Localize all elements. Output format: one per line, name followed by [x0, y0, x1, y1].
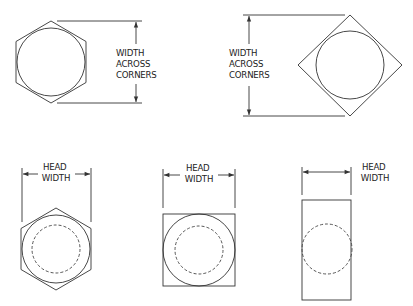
bearing-circle [163, 214, 235, 286]
label-line-3: CORNERS [229, 70, 270, 80]
hexagon-outline [21, 208, 91, 290]
dimension-label: HEAD WIDTH [185, 163, 213, 184]
fastener-head-diagram: WIDTH ACROSS CORNERS WIDTH ACROSS CORNER… [0, 0, 413, 306]
label-line-1: WIDTH [229, 48, 257, 58]
hexagon-outline [16, 21, 86, 103]
square-width-across-corners-figure: WIDTH ACROSS CORNERS [229, 15, 402, 116]
label-line-2: ACROSS [116, 59, 150, 69]
hexagon-width-across-corners-figure: WIDTH ACROSS CORNERS [16, 21, 157, 103]
label-line-1: HEAD [186, 163, 210, 173]
rectangle-outline [302, 200, 351, 300]
dimension-label: WIDTH ACROSS CORNERS [229, 48, 270, 80]
bearing-circle [17, 28, 85, 96]
rectangle-head-width-figure: HEAD WIDTH [302, 162, 389, 300]
diamond-outline [298, 15, 402, 116]
label-line-2: WIDTH [42, 173, 70, 183]
label-line-2: WIDTH [361, 173, 389, 183]
dashed-hole-circle [302, 224, 352, 274]
dashed-hole-circle [175, 226, 223, 274]
label-line-1: HEAD [362, 162, 386, 172]
label-line-3: CORNERS [116, 70, 157, 80]
square-head-width-figure: HEAD WIDTH [163, 163, 235, 286]
dimension-label: WIDTH ACROSS CORNERS [116, 48, 157, 80]
label-line-1: HEAD [43, 162, 67, 172]
label-line-2: WIDTH [185, 174, 213, 184]
dashed-hole-circle [32, 225, 80, 273]
hexagon-head-width-figure: HEAD WIDTH [21, 162, 91, 290]
label-line-1: WIDTH [116, 48, 144, 58]
bearing-circle [316, 31, 384, 99]
label-line-2: ACROSS [229, 59, 263, 69]
dimension-label: HEAD WIDTH [42, 162, 70, 183]
dimension-label: HEAD WIDTH [361, 162, 389, 183]
